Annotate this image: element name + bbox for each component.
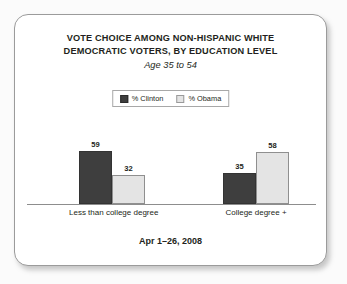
chart-footer-date: Apr 1–26, 2008: [15, 236, 326, 246]
category-label-less-than-college: Less than college degree: [69, 208, 155, 217]
chart-card: VOTE CHOICE AMONG NON-HISPANIC WHITE DEM…: [14, 14, 327, 266]
bar-group-college-degree-plus: 35 58: [213, 120, 299, 204]
screenshot-stage: VOTE CHOICE AMONG NON-HISPANIC WHITE DEM…: [0, 0, 347, 284]
legend-swatch-clinton-icon: [120, 95, 128, 103]
legend-entry-clinton[interactable]: % Clinton: [120, 94, 164, 103]
bar-value-label: 35: [235, 163, 243, 171]
category-label-college-degree-plus: College degree +: [213, 208, 299, 217]
bar-value-label: 58: [268, 142, 276, 150]
bar-group-less-than-college: 59 32: [69, 120, 155, 204]
legend-swatch-obama-icon: [176, 95, 184, 103]
legend-label-clinton: % Clinton: [132, 94, 164, 103]
bar-value-label: 32: [124, 165, 132, 173]
bar-clinton[interactable]: [223, 173, 256, 204]
chart-header: VOTE CHOICE AMONG NON-HISPANIC WHITE DEM…: [15, 32, 326, 71]
chart-axis-baseline: [27, 204, 316, 205]
bar-column-obama-group-1[interactable]: 58: [256, 120, 289, 204]
legend-entry-obama[interactable]: % Obama: [176, 94, 221, 103]
bar-obama[interactable]: [256, 152, 289, 204]
bar-column-obama-group-0[interactable]: 32: [112, 120, 145, 204]
bar-obama[interactable]: [112, 175, 145, 204]
chart-category-labels: Less than college degree College degree …: [27, 208, 316, 222]
chart-subtitle: Age 35 to 54: [15, 59, 326, 71]
chart-title-line-2: DEMOCRATIC VOTERS, BY EDUCATION LEVEL: [15, 45, 326, 58]
legend-label-obama: % Obama: [188, 94, 221, 103]
bar-clinton[interactable]: [79, 151, 112, 204]
chart-legend: % Clinton % Obama: [112, 90, 230, 107]
bar-column-clinton-group-1[interactable]: 35: [223, 120, 256, 204]
bar-value-label: 59: [91, 141, 99, 149]
chart-plot-area: 59 32 35 58: [27, 120, 316, 205]
chart-title-line-1: VOTE CHOICE AMONG NON-HISPANIC WHITE: [15, 32, 326, 45]
bar-column-clinton-group-0[interactable]: 59: [79, 120, 112, 204]
